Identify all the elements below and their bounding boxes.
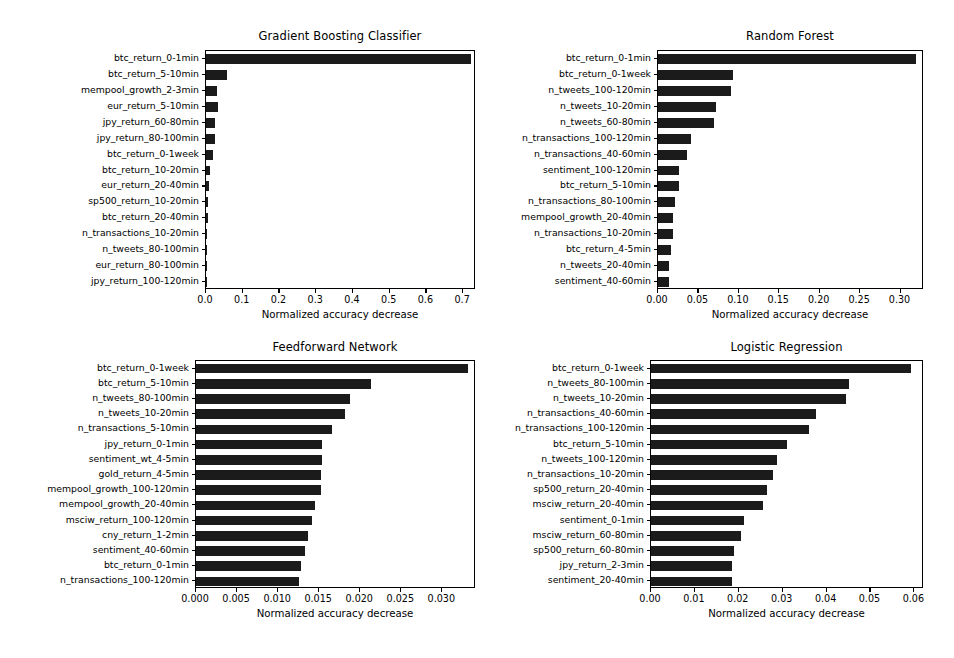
- bar: [651, 485, 767, 494]
- figure-canvas: Gradient Boosting Classifierbtc_return_0…: [0, 0, 954, 658]
- bar-row: [651, 485, 922, 494]
- x-tick-label: 0.03: [760, 594, 804, 604]
- y-tick-label: msciw_return_20-40min: [533, 499, 644, 508]
- x-tick-mark: [913, 588, 914, 592]
- y-tick-mark: [647, 474, 651, 475]
- x-tick-mark: [782, 588, 783, 592]
- y-tick-mark: [647, 368, 651, 369]
- bar: [651, 425, 809, 434]
- bar-row: [651, 531, 922, 540]
- y-tick-label: sp500_return_20-40min: [533, 484, 644, 493]
- bar-row: [651, 379, 922, 388]
- bar: [651, 546, 734, 555]
- x-tick-label: 0.00: [628, 594, 672, 604]
- y-tick-label: n_transactions_10-20min: [527, 469, 644, 478]
- bar: [651, 379, 849, 388]
- bar-row: [651, 561, 922, 570]
- y-tick-label: n_tweets_10-20min: [553, 393, 644, 402]
- y-tick-label: n_transactions_40-60min: [527, 408, 644, 417]
- bar: [651, 440, 787, 449]
- y-tick-mark: [647, 459, 651, 460]
- bar-row: [651, 470, 922, 479]
- bar-row: [651, 546, 922, 555]
- bar: [651, 470, 773, 479]
- x-tick-label: 0.05: [847, 594, 891, 604]
- bar: [651, 516, 744, 525]
- bar-row: [651, 425, 922, 434]
- y-tick-mark: [647, 504, 651, 505]
- y-tick-mark: [647, 428, 651, 429]
- bar-row: [651, 577, 922, 586]
- bar-row: [651, 440, 922, 449]
- bar: [651, 455, 777, 464]
- bar: [651, 561, 732, 570]
- bar-row: [651, 455, 922, 464]
- bar-row: [651, 394, 922, 403]
- y-tick-label: n_tweets_80-100min: [547, 378, 644, 387]
- x-tick-mark: [826, 588, 827, 592]
- x-tick-label: 0.02: [716, 594, 760, 604]
- chart-title-4: Logistic Regression: [650, 340, 923, 354]
- y-tick-mark: [647, 398, 651, 399]
- bar: [651, 394, 846, 403]
- bar-row: [651, 409, 922, 418]
- chart-panel-4: Logistic Regressionbtc_return_0-1weekn_t…: [0, 0, 954, 658]
- x-tick-label: 0.04: [804, 594, 848, 604]
- y-tick-mark: [647, 580, 651, 581]
- y-tick-mark: [647, 550, 651, 551]
- bar: [651, 364, 911, 373]
- bar: [651, 577, 732, 586]
- bar: [651, 531, 741, 540]
- x-axis-title-4: Normalized accuracy decrease: [650, 608, 923, 619]
- y-tick-label: n_transactions_100-120min: [515, 423, 644, 432]
- y-tick-mark: [647, 444, 651, 445]
- y-tick-label: jpy_return_2-3min: [560, 560, 644, 569]
- y-tick-mark: [647, 383, 651, 384]
- y-tick-mark: [647, 565, 651, 566]
- x-tick-label: 0.06: [891, 594, 935, 604]
- x-tick-mark: [650, 588, 651, 592]
- y-tick-label: sentiment_0-1min: [560, 515, 644, 524]
- y-tick-label: msciw_return_60-80min: [533, 530, 644, 539]
- x-tick-label: 0.01: [672, 594, 716, 604]
- y-tick-mark: [647, 413, 651, 414]
- x-tick-mark: [738, 588, 739, 592]
- y-tick-mark: [647, 535, 651, 536]
- y-tick-label: btc_return_0-1week: [552, 363, 644, 372]
- x-tick-mark: [694, 588, 695, 592]
- plot-area-4: [650, 360, 923, 588]
- y-tick-label: sp500_return_60-80min: [533, 545, 644, 554]
- bar: [651, 409, 816, 418]
- y-tick-mark: [647, 489, 651, 490]
- y-tick-mark: [647, 520, 651, 521]
- bar-row: [651, 364, 922, 373]
- x-tick-mark: [869, 588, 870, 592]
- bar-row: [651, 516, 922, 525]
- y-tick-label: btc_return_5-10min: [553, 439, 644, 448]
- bar: [651, 501, 763, 510]
- bar-row: [651, 501, 922, 510]
- y-tick-label: sentiment_20-40min: [548, 575, 644, 584]
- y-tick-label: n_tweets_100-120min: [541, 454, 644, 463]
